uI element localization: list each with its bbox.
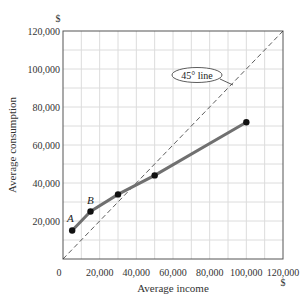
- y-tick-label: 20,000: [33, 216, 61, 227]
- x-axis-unit: $: [281, 277, 286, 288]
- x-tick-label: 0: [57, 267, 62, 278]
- data-point: [151, 172, 157, 178]
- y-tick-label: 40,000: [33, 178, 61, 189]
- x-axis-ticks: 020,00040,00060,00080,000100,000120,000: [57, 267, 300, 278]
- y-axis-label: Average consumption: [6, 96, 18, 193]
- data-point: [115, 191, 121, 197]
- y-axis-ticks: 20,00040,00060,00080,000100,000120,000: [28, 26, 61, 227]
- data-point: [69, 227, 75, 233]
- 45-line-callout: 45° line: [172, 68, 233, 86]
- callout-leader: [220, 79, 233, 85]
- y-tick-label: 80,000: [33, 102, 61, 113]
- x-tick-label: 60,000: [159, 267, 187, 278]
- x-tick-label: 100,000: [230, 267, 263, 278]
- x-tick-label: 20,000: [86, 267, 114, 278]
- y-tick-label: 60,000: [33, 140, 61, 151]
- point-label-b: B: [87, 194, 94, 206]
- point-label-a: A: [66, 212, 74, 224]
- data-point: [243, 119, 249, 125]
- y-tick-label: 120,000: [28, 26, 61, 37]
- y-axis-unit: $: [56, 13, 61, 24]
- x-tick-label: 80,000: [196, 267, 224, 278]
- callout-text: 45° line: [181, 70, 213, 81]
- data-point: [87, 208, 93, 214]
- x-axis-label: Average income: [137, 282, 209, 294]
- consumption-line: [72, 122, 246, 230]
- consumption-chart: 20,00040,00060,00080,000100,000120,000 0…: [0, 0, 304, 302]
- y-tick-label: 100,000: [28, 64, 61, 75]
- x-tick-label: 40,000: [123, 267, 151, 278]
